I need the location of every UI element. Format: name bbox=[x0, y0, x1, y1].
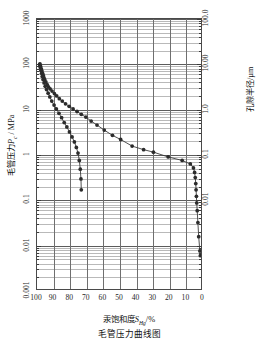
tick-bottom bbox=[37, 289, 38, 290]
data-point-marker bbox=[52, 103, 56, 107]
data-point-marker bbox=[42, 81, 46, 85]
x-tick-label: 90 bbox=[49, 294, 57, 302]
chart-title: 毛管压力曲线图 bbox=[98, 327, 161, 339]
x-axis-title: 汞饱和度SHg/% bbox=[103, 312, 155, 326]
data-point-marker bbox=[65, 125, 69, 129]
data-point-marker bbox=[46, 91, 50, 95]
left-axis-title-prefix: 毛管压力 bbox=[7, 144, 16, 176]
x-tick-label: 10 bbox=[182, 294, 190, 302]
data-point-marker bbox=[45, 88, 49, 92]
y-tick-label: 1000 bbox=[23, 10, 30, 25]
tick-bottom bbox=[137, 289, 138, 290]
left-axis-title: 毛管压力Pc / MPa bbox=[4, 115, 18, 176]
series-line bbox=[40, 64, 200, 256]
tick-bottom bbox=[87, 289, 88, 290]
data-point-marker bbox=[194, 188, 198, 192]
data-point-marker bbox=[64, 102, 68, 106]
x-tick-label: 30 bbox=[148, 294, 156, 302]
data-point-marker bbox=[40, 75, 44, 79]
data-point-marker bbox=[195, 194, 199, 198]
tick-bottom bbox=[54, 289, 55, 290]
data-point-marker bbox=[67, 104, 71, 108]
data-point-marker bbox=[166, 155, 170, 159]
x-axis-title-prefix: 汞饱和度 bbox=[103, 315, 135, 324]
data-point-marker bbox=[197, 235, 201, 239]
x-tick-label: 60 bbox=[99, 294, 107, 302]
data-point-marker bbox=[152, 150, 156, 154]
data-point-marker bbox=[76, 151, 80, 155]
capillary-pressure-chart-figure: 0.0010.010.11101001000 100.010.001.00.10… bbox=[0, 0, 259, 346]
y2-tick-label: 100.0 bbox=[202, 9, 209, 26]
data-point-marker bbox=[43, 84, 47, 88]
x-tick-label: 40 bbox=[132, 294, 140, 302]
data-point-marker bbox=[57, 111, 61, 115]
left-axis-title-symbol: P bbox=[7, 139, 16, 144]
y-tick-label: 100 bbox=[23, 58, 30, 69]
data-point-marker bbox=[48, 95, 52, 99]
data-point-marker bbox=[54, 107, 58, 111]
x-axis-title-subscript: Hg bbox=[139, 320, 146, 326]
data-point-marker bbox=[111, 133, 115, 137]
data-point-marker bbox=[194, 182, 198, 186]
y-tick-label: 0.01 bbox=[23, 238, 30, 251]
tick-bottom bbox=[153, 289, 154, 290]
x-tick-label: 80 bbox=[65, 294, 73, 302]
data-point-marker bbox=[73, 140, 77, 144]
data-point-marker bbox=[57, 97, 61, 101]
data-point-marker bbox=[71, 107, 75, 111]
y2-tick-label: 0.1 bbox=[202, 149, 209, 159]
data-point-marker bbox=[62, 121, 66, 125]
data-point-marker bbox=[55, 94, 59, 98]
data-point-marker bbox=[193, 171, 197, 175]
x-tick-label: 20 bbox=[165, 294, 173, 302]
data-point-marker bbox=[77, 159, 81, 163]
data-point-marker bbox=[95, 123, 99, 127]
y2-tick-label: 10.00 bbox=[202, 55, 209, 72]
data-point-marker bbox=[142, 148, 146, 152]
tick-bottom bbox=[186, 289, 187, 290]
data-point-marker bbox=[196, 221, 200, 225]
tick-bottom bbox=[103, 289, 104, 290]
data-point-marker bbox=[188, 162, 192, 166]
data-point-marker bbox=[50, 99, 54, 103]
x-tick-label: 100 bbox=[30, 294, 41, 302]
y-tick-label: 0.1 bbox=[23, 195, 30, 205]
data-point-marker bbox=[198, 254, 201, 258]
left-axis-title-subscript: c bbox=[12, 137, 18, 139]
x-tick-label: 70 bbox=[82, 294, 90, 302]
data-point-marker bbox=[79, 188, 83, 192]
y-tick-label: 1 bbox=[23, 152, 30, 156]
data-point-marker bbox=[195, 209, 199, 213]
data-point-marker bbox=[79, 177, 83, 181]
y-tick-label: 0.001 bbox=[23, 281, 30, 298]
tick-bottom bbox=[70, 289, 71, 290]
x-tick-label: 0 bbox=[200, 294, 204, 302]
y-tick-label: 10 bbox=[23, 105, 30, 113]
data-point-marker bbox=[79, 112, 83, 116]
data-point-marker bbox=[60, 99, 64, 103]
y2-tick-label: 1.0 bbox=[202, 104, 209, 114]
data-point-marker bbox=[180, 159, 184, 163]
tick-bottom bbox=[120, 289, 121, 290]
x-axis-title-suffix: /% bbox=[146, 315, 155, 324]
data-point-marker bbox=[70, 135, 74, 139]
data-point-marker bbox=[84, 115, 88, 119]
data-point-marker bbox=[119, 138, 123, 142]
data-point-marker bbox=[78, 167, 82, 171]
data-point-marker bbox=[68, 130, 72, 134]
data-point-marker bbox=[193, 176, 197, 180]
data-point-marker bbox=[192, 166, 196, 170]
data-point-marker bbox=[41, 78, 45, 82]
data-point-marker bbox=[60, 116, 64, 120]
data-point-marker bbox=[89, 119, 93, 123]
data-point-marker bbox=[75, 110, 79, 114]
data-point-marker bbox=[74, 146, 78, 150]
y2-tick-label: 0.01 bbox=[202, 193, 209, 206]
left-axis-title-suffix: / MPa bbox=[7, 115, 16, 137]
plot-area bbox=[36, 18, 202, 290]
right-axis-title: 孔隙半径/µm bbox=[243, 67, 255, 112]
data-point-marker bbox=[195, 201, 199, 205]
data-point-marker bbox=[102, 128, 106, 132]
data-series-layer bbox=[37, 19, 201, 289]
tick-bottom bbox=[170, 289, 171, 290]
